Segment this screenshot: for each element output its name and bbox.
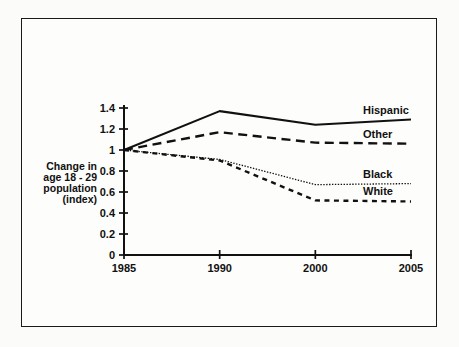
y-tick-label: 1.4 — [100, 102, 116, 114]
y-axis-title-line-4: (index) — [63, 193, 97, 205]
y-tick-label: 0 — [109, 249, 115, 261]
x-tick-label: 2005 — [399, 262, 423, 274]
y-tick-label: 1.2 — [100, 123, 115, 135]
x-tick-label: 1990 — [207, 262, 231, 274]
y-axis-title: Change in age 18 - 29 population (index) — [43, 160, 97, 205]
line-chart: Change in age 18 - 29 population (index)… — [0, 0, 459, 347]
series-label-other: Other — [363, 128, 393, 140]
figure-root: Change in age 18 - 29 population (index)… — [0, 0, 459, 347]
series-label-white: White — [363, 185, 393, 197]
x-tick-label: 2000 — [303, 262, 327, 274]
y-tick-label: 0.2 — [100, 228, 115, 240]
y-tick-label: 0.4 — [100, 207, 116, 219]
y-tick-label: 0.8 — [100, 165, 115, 177]
series-label-black: Black — [363, 168, 393, 180]
y-tick-label: 1 — [109, 144, 115, 156]
series-label-hispanic: Hispanic — [363, 104, 409, 116]
x-tick-label: 1985 — [112, 262, 136, 274]
x-axis-ticks: 1985199020002005 — [112, 250, 423, 274]
y-tick-label: 0.6 — [100, 186, 115, 198]
